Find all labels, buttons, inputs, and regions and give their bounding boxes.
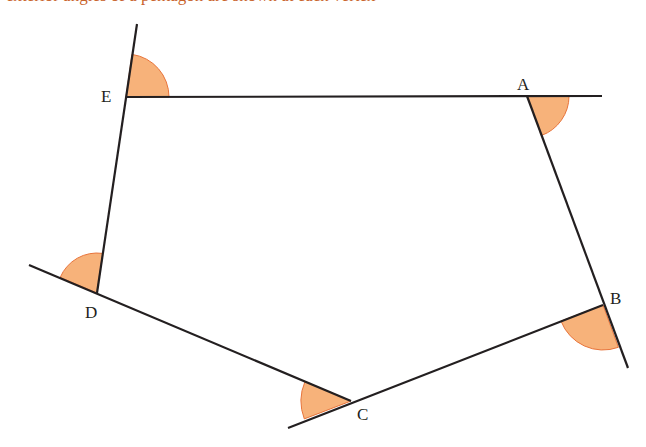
line-EA-extended [126,96,602,97]
vertex-label-E: E [101,87,111,106]
exterior-angle-B [561,305,618,350]
vertex-label-A: A [517,75,530,94]
line-CD-extended [29,265,351,401]
line-DE-extended [97,24,137,293]
line-BC-extended [288,305,603,428]
vertex-label-B: B [610,289,621,308]
vertex-label-D: D [85,303,97,322]
vertex-label-C: C [357,405,368,424]
pentagon-diagram: E A B C D [0,0,646,447]
